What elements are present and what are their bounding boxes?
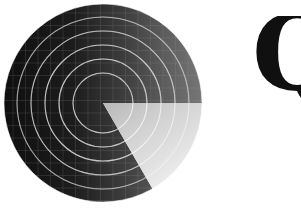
figure-page: Q: [0, 0, 301, 210]
chart-figure: Q: [0, 0, 301, 210]
cropped-letter-glyph: Q: [252, 16, 301, 106]
side-glyph-container: Q: [252, 16, 301, 126]
